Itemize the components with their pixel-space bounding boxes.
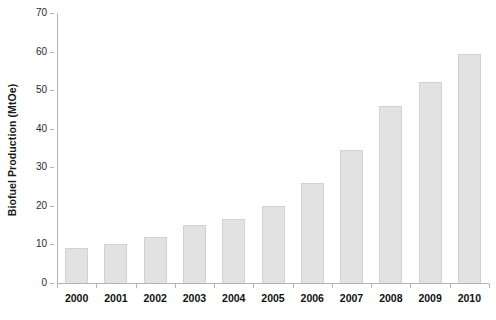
bar [301,183,324,283]
x-axis-tick-label: 2007 [340,292,363,304]
bar [340,150,363,283]
x-axis-tick-label: 2000 [65,292,88,304]
x-axis-tick-mark [371,284,372,288]
bar [222,219,245,283]
y-axis-tick-mark [50,206,54,207]
y-axis-tick-mark [50,13,54,14]
bar [419,82,442,283]
y-axis-tick-mark [50,129,54,130]
y-axis-line [57,13,58,284]
x-axis-tick-mark [175,284,176,288]
x-axis-tick-mark [136,284,137,288]
y-axis-tick-mark [50,244,54,245]
x-axis-tick-mark [450,284,451,288]
x-axis-tick-mark [489,284,490,288]
x-axis-tick-label: 2009 [418,292,441,304]
bar [104,244,127,283]
x-axis-tick-mark [332,284,333,288]
x-axis-tick-label: 2010 [458,292,481,304]
x-axis-line [57,283,489,284]
y-axis-tick-mark [50,52,54,53]
y-axis-tick-mark [50,283,54,284]
y-axis-tick-mark [50,90,54,91]
y-axis-tick-label: 0 [41,276,47,289]
x-axis-tick-mark [57,284,58,288]
y-axis-tick-label: 30 [36,160,47,173]
x-axis-tick-mark [410,284,411,288]
bar [183,225,206,283]
y-axis-tick-label: 70 [36,6,47,19]
y-axis-tick-label: 40 [36,122,47,135]
y-axis-tick-label: 10 [36,237,47,250]
y-axis-tick-label: 60 [36,45,47,58]
x-axis-tick-mark [214,284,215,288]
x-axis-tick-label: 2006 [301,292,324,304]
y-axis-tick-mark [50,167,54,168]
bar-chart: Biofuel Production (MtOe) 01020304050607… [0,0,496,320]
bar [65,248,88,283]
x-axis-tick-mark [293,284,294,288]
x-axis-tick-label: 2002 [143,292,166,304]
x-axis-tick-label: 2003 [183,292,206,304]
x-axis-tick-label: 2005 [261,292,284,304]
bar [379,106,402,283]
x-axis-tick-label: 2008 [379,292,402,304]
bar [144,237,167,283]
y-axis-title: Biofuel Production (MtOe) [0,0,24,300]
bar [458,54,481,284]
y-axis-tick-label: 50 [36,83,47,96]
y-axis-title-label: Biofuel Production (MtOe) [6,84,18,217]
x-axis-tick-label: 2001 [104,292,127,304]
x-axis-tick-mark [96,284,97,288]
x-axis-tick-mark [253,284,254,288]
y-axis-tick-label: 20 [36,199,47,212]
x-axis-tick-label: 2004 [222,292,245,304]
bar [262,206,285,283]
